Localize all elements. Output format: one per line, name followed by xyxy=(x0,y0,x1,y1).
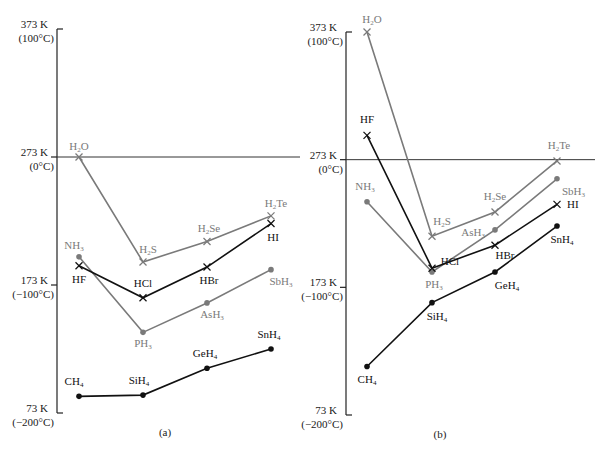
data-label: SbH3 xyxy=(562,185,586,199)
y-tick-label-celsius: (0°C) xyxy=(29,160,54,173)
series-line xyxy=(79,349,271,396)
panel-label: (b) xyxy=(434,428,447,441)
y-tick-label-kelvin: 373 K xyxy=(310,21,337,33)
data-label: PH3 xyxy=(425,278,443,292)
y-tick-label-celsius: (−200°C) xyxy=(301,418,343,431)
data-point-dot xyxy=(76,254,82,260)
y-tick-label-celsius: (100°C) xyxy=(18,32,54,45)
data-label: H2O xyxy=(69,140,88,154)
data-label: HBr xyxy=(200,274,219,286)
data-point-x-marker xyxy=(554,201,561,208)
data-point-x-marker xyxy=(554,157,561,164)
data-label: SiH4 xyxy=(427,310,448,324)
data-point-dot xyxy=(204,365,210,371)
data-label: HI xyxy=(567,198,579,210)
data-point-x-marker xyxy=(364,132,371,139)
data-label: NH3 xyxy=(355,180,375,194)
series-line xyxy=(79,157,271,262)
data-point-dot xyxy=(492,269,498,275)
data-point-dot xyxy=(429,300,435,306)
data-label: H2Te xyxy=(548,139,570,153)
data-label: CH4 xyxy=(65,375,84,389)
data-point-dot xyxy=(364,364,370,370)
data-label: H2S xyxy=(433,215,451,229)
data-point-x-marker xyxy=(140,294,147,301)
data-label: SiH4 xyxy=(129,374,150,388)
data-label: NH3 xyxy=(64,239,84,253)
data-label: GeH4 xyxy=(193,347,218,361)
data-label: HCl xyxy=(441,255,459,267)
panel-label: (a) xyxy=(159,426,172,439)
data-label: HCl xyxy=(134,277,152,289)
data-label: H2Se xyxy=(198,222,221,236)
series-line xyxy=(367,32,557,236)
y-tick-label-celsius: (100°C) xyxy=(307,35,343,48)
y-tick-label-kelvin: 73 K xyxy=(315,404,337,416)
data-label: H2Se xyxy=(484,190,507,204)
data-point-dot xyxy=(140,330,146,336)
y-tick-label-celsius: (−200°C) xyxy=(12,416,54,429)
data-label: SnH4 xyxy=(550,233,574,247)
hydride-temperature-charts: 373 K(100°C)273 K(0°C)173 K(−100°C)73 K(… xyxy=(0,0,595,453)
data-point-x-marker xyxy=(76,262,83,269)
series-line xyxy=(367,226,557,366)
data-label: SbH3 xyxy=(269,275,293,289)
data-point-x-marker xyxy=(492,209,499,216)
y-tick-label-kelvin: 373 K xyxy=(21,18,48,30)
data-label: PH3 xyxy=(134,337,152,351)
data-label: CH4 xyxy=(358,373,377,387)
panel-a: 373 K(100°C)273 K(0°C)173 K(−100°C)73 K(… xyxy=(12,18,300,439)
series-line xyxy=(79,224,271,298)
data-point-dot xyxy=(268,346,274,352)
data-point-x-marker xyxy=(268,212,275,219)
data-point-dot xyxy=(268,267,274,273)
y-tick-label-kelvin: 273 K xyxy=(310,149,337,161)
data-label: AsH3 xyxy=(461,226,485,240)
data-point-dot xyxy=(554,176,560,182)
data-label: HI xyxy=(267,231,279,243)
data-label: SnH4 xyxy=(257,328,281,342)
data-label: GeH4 xyxy=(495,279,520,293)
data-label: H2S xyxy=(139,243,157,257)
data-label: H2Te xyxy=(265,197,287,211)
data-point-dot xyxy=(204,300,210,306)
y-tick-label-kelvin: 173 K xyxy=(310,276,337,288)
data-point-x-marker xyxy=(268,220,275,227)
y-tick-label-kelvin: 73 K xyxy=(26,402,48,414)
y-tick-label-celsius: (0°C) xyxy=(318,163,343,176)
data-point-x-marker xyxy=(204,264,211,271)
data-label: HF xyxy=(72,273,86,285)
data-point-dot xyxy=(554,223,560,229)
y-tick-label-celsius: (−100°C) xyxy=(12,288,54,301)
series-line xyxy=(79,257,271,333)
data-point-dot xyxy=(76,394,82,400)
data-point-dot xyxy=(492,227,498,233)
y-tick-label-celsius: (−100°C) xyxy=(301,290,343,303)
y-tick-label-kelvin: 173 K xyxy=(21,274,48,286)
data-point-x-marker xyxy=(492,242,499,249)
data-point-dot xyxy=(140,392,146,398)
data-label: HF xyxy=(360,113,374,125)
y-tick-label-kelvin: 273 K xyxy=(21,146,48,158)
data-label: H2O xyxy=(362,13,381,27)
data-point-dot xyxy=(364,199,370,205)
data-label: AsH3 xyxy=(200,308,224,322)
panel-b: 373 K(100°C)273 K(0°C)173 K(−100°C)73 K(… xyxy=(301,13,595,441)
